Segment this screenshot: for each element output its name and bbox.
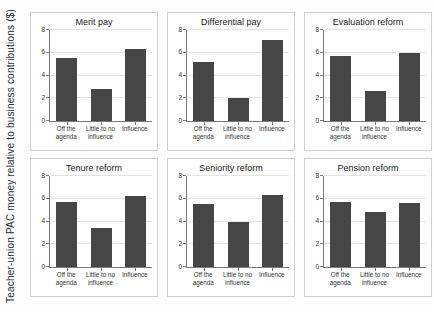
category-label: Influence (392, 271, 426, 293)
shared-y-axis-label: Teacher-union PAC money relative to busi… (2, 0, 18, 311)
y-gridline (50, 175, 152, 176)
bar-4-2 (91, 228, 112, 267)
category-label: Off the agenda (49, 271, 83, 293)
y-tick-mark (46, 52, 49, 53)
category-axis: Off the agendaLittle to no influenceInfl… (186, 125, 289, 147)
plot-area: 02468 (49, 176, 152, 268)
y-tick-mark (46, 198, 49, 199)
y-tick-mark (183, 97, 186, 98)
plot-area: 02468 (323, 176, 426, 268)
y-tick-mark (46, 97, 49, 98)
category-label: Little to no influence (357, 271, 391, 293)
y-tick-label: 2 (41, 95, 45, 102)
y-tick-label: 6 (41, 50, 45, 57)
plot-area: 02468 (49, 30, 152, 122)
bar-1-2 (91, 89, 112, 121)
bar-1-3 (125, 49, 146, 121)
y-tick-mark (320, 29, 323, 30)
y-gridline (324, 198, 426, 199)
y-tick-label: 8 (315, 27, 319, 34)
chart-panel: Differential pay02468Off the agendaLittl… (167, 12, 295, 151)
bar-2-1 (193, 62, 214, 121)
y-tick-label: 2 (178, 241, 182, 248)
y-tick-mark (46, 221, 49, 222)
category-axis: Off the agendaLittle to no influenceInfl… (323, 125, 426, 147)
chart-panel: Tenure reform02468Off the agendaLittle t… (30, 158, 158, 297)
y-tick-label: 0 (41, 118, 45, 125)
y-gridline (187, 175, 289, 176)
category-axis: Off the agendaLittle to no influenceInfl… (49, 125, 152, 147)
y-tick-label: 6 (315, 50, 319, 57)
bar-6-2 (365, 212, 386, 267)
category-label: Little to no influence (83, 271, 117, 293)
plot-area: 02468 (323, 30, 426, 122)
chart-panel: Seniority reform02468Off the agendaLittl… (167, 158, 295, 297)
y-tick-mark (183, 120, 186, 121)
bar-5-1 (193, 204, 214, 267)
category-axis: Off the agendaLittle to no influenceInfl… (323, 271, 426, 293)
y-gridline (324, 175, 426, 176)
y-tick-mark (183, 52, 186, 53)
bar-5-2 (228, 222, 249, 268)
panel-title: Differential pay (168, 17, 294, 27)
bar-2-3 (262, 40, 283, 121)
bar-5-3 (262, 195, 283, 267)
y-tick-label: 0 (41, 264, 45, 271)
y-tick-mark (320, 120, 323, 121)
category-label: Off the agenda (186, 125, 220, 147)
y-tick-mark (46, 243, 49, 244)
y-tick-mark (46, 175, 49, 176)
bar-1-1 (56, 58, 77, 121)
chart-panel: Pension reform02468Off the agendaLittle … (304, 158, 432, 297)
category-axis: Off the agendaLittle to no influenceInfl… (49, 271, 152, 293)
category-label: Influence (392, 125, 426, 147)
y-tick-label: 0 (178, 264, 182, 271)
y-tick-mark (320, 175, 323, 176)
y-tick-label: 4 (178, 72, 182, 79)
plot-area: 02468 (186, 176, 289, 268)
y-tick-label: 0 (315, 118, 319, 125)
y-tick-mark (46, 120, 49, 121)
y-tick-label: 2 (41, 241, 45, 248)
y-tick-mark (46, 266, 49, 267)
chart-grid: Merit pay02468Off the agendaLittle to no… (30, 12, 432, 297)
chart-panel: Evaluation reform02468Off the agendaLitt… (304, 12, 432, 151)
y-tick-label: 0 (315, 264, 319, 271)
y-tick-mark (320, 52, 323, 53)
y-tick-mark (320, 97, 323, 98)
y-tick-label: 4 (315, 218, 319, 225)
category-label: Influence (255, 271, 289, 293)
bar-3-1 (330, 56, 351, 121)
category-axis: Off the agendaLittle to no influenceInfl… (186, 271, 289, 293)
category-label: Little to no influence (220, 125, 254, 147)
category-label: Influence (118, 125, 152, 147)
y-tick-label: 8 (178, 27, 182, 34)
y-tick-mark (320, 198, 323, 199)
y-tick-label: 8 (315, 173, 319, 180)
bar-6-1 (330, 202, 351, 267)
y-tick-mark (183, 29, 186, 30)
y-gridline (187, 29, 289, 30)
y-tick-mark (183, 175, 186, 176)
category-label: Influence (118, 271, 152, 293)
panel-title: Merit pay (31, 17, 157, 27)
y-tick-label: 8 (178, 173, 182, 180)
bar-3-3 (399, 53, 420, 121)
y-tick-mark (320, 243, 323, 244)
y-tick-mark (46, 29, 49, 30)
y-tick-mark (320, 266, 323, 267)
panel-title: Tenure reform (31, 163, 157, 173)
y-tick-label: 6 (41, 196, 45, 203)
y-tick-label: 8 (41, 27, 45, 34)
chart-panel: Merit pay02468Off the agendaLittle to no… (30, 12, 158, 151)
y-tick-label: 0 (178, 118, 182, 125)
y-tick-mark (183, 221, 186, 222)
category-label: Little to no influence (220, 271, 254, 293)
y-tick-mark (183, 75, 186, 76)
bar-3-2 (365, 91, 386, 121)
y-tick-label: 2 (315, 95, 319, 102)
panel-title: Evaluation reform (305, 17, 431, 27)
category-label: Off the agenda (186, 271, 220, 293)
y-gridline (324, 29, 426, 30)
panel-title: Pension reform (305, 163, 431, 173)
